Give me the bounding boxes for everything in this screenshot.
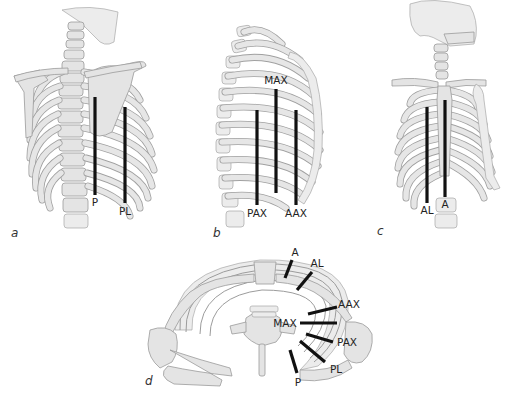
panel-b-skeleton-illustration: [216, 25, 322, 227]
label-AAX-panel-b: AAX: [285, 207, 307, 219]
thorax-line-diagram: P PL a: [0, 0, 517, 393]
clavicle-illustration: [392, 78, 438, 88]
left-scapula-illustration: [148, 328, 177, 368]
label-PL-panel-d: PL: [330, 363, 342, 375]
panel-letter-b: b: [213, 226, 221, 240]
label-MAX-panel-d: MAX: [273, 317, 296, 329]
label-P-panel-a: P: [92, 196, 98, 208]
label-PL-panel-a: PL: [119, 205, 131, 217]
label-A-panel-c: A: [441, 198, 449, 210]
ribs-left-illustration: [30, 72, 62, 208]
label-AL-panel-c: AL: [420, 204, 433, 216]
panel-letter-d: d: [145, 374, 153, 388]
line-P-axial: [290, 350, 297, 373]
label-PAX-panel-b: PAX: [247, 207, 267, 219]
label-A-panel-d: A: [291, 246, 299, 258]
panel-a-skeleton-illustration: [14, 7, 154, 228]
label-AL-panel-d: AL: [310, 257, 323, 269]
panel-letter-c: c: [377, 224, 384, 238]
ribs-lateral-illustration: [222, 30, 320, 208]
label-MAX-panel-b: MAX: [264, 74, 287, 86]
panel-letter-a: a: [11, 226, 18, 240]
label-AAX-panel-d: AAX: [338, 298, 360, 310]
sternum-illustration: [254, 262, 276, 284]
label-PAX-panel-d: PAX: [337, 336, 357, 348]
label-P-panel-d: P: [295, 376, 301, 388]
